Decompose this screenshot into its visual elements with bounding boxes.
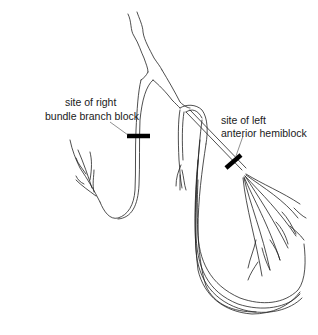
conduction-diagram: site of right bundle branch block site o… [0,0,318,335]
septal-fascicle [176,110,186,190]
left-block-leader-line [236,136,243,156]
left-anterior-block-marker [226,155,241,168]
right-block-label-line2: bundle branch block [45,110,140,122]
left-block-label-line1: site of left [221,114,266,126]
left-block-label-line2: anterior hemiblock [221,127,308,139]
right-block-leader-line [110,122,128,135]
left-bundle-branch [153,70,207,144]
right-block-label-line1: site of right [65,96,116,108]
his-bundle [128,12,162,80]
